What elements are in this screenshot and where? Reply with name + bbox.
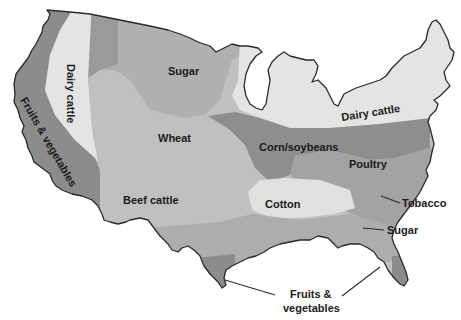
label-cotton: Cotton <box>265 198 301 210</box>
fruits-leader-line-florida <box>342 267 380 296</box>
map-regions <box>0 0 461 320</box>
label-tobacco: Tobacco <box>402 197 447 209</box>
label-sugar-north: Sugar <box>168 65 200 77</box>
label-fruits-vegetables-south-line2: vegetables <box>283 302 340 314</box>
label-poultry: Poultry <box>349 158 388 170</box>
label-beef-cattle: Beef cattle <box>123 194 179 206</box>
label-wheat: Wheat <box>158 132 191 144</box>
label-corn-soybeans: Corn/soybeans <box>259 141 338 153</box>
label-sugar-south: Sugar <box>387 224 419 236</box>
region-dairy-cattle-east <box>232 0 461 128</box>
fruits-leader-line-texas <box>225 280 275 295</box>
us-agriculture-map: Dairy cattle Fruits & vegetables Sugar W… <box>0 0 461 320</box>
label-fruits-vegetables-south-line1: Fruits & <box>290 288 332 300</box>
region-fruits-vegetables-florida <box>392 256 420 300</box>
label-dairy-cattle-west: Dairy cattle <box>65 64 77 123</box>
